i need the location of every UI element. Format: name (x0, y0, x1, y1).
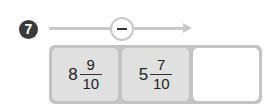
mixed-number: 8 9 10 (68, 57, 101, 93)
fraction: 9 10 (80, 57, 102, 93)
minuend-cell: 8 9 10 (52, 48, 118, 101)
numerator: 7 (157, 57, 165, 73)
fraction: 7 10 (150, 57, 172, 93)
numerator: 9 (87, 57, 95, 73)
whole-part: 5 (139, 65, 148, 85)
answer-cell[interactable] (193, 48, 259, 101)
denominator: 10 (153, 76, 170, 92)
arrow-head-icon (183, 23, 192, 33)
subtrahend-cell: 5 7 10 (122, 48, 189, 101)
mixed-number: 5 7 10 (139, 57, 172, 93)
denominator: 10 (82, 76, 99, 92)
number-boxes: 8 9 10 5 7 10 (49, 45, 262, 104)
minus-operation-circle (110, 17, 134, 41)
whole-part: 8 (68, 65, 77, 85)
problem-number-badge: 7 (19, 20, 38, 39)
minus-icon (117, 28, 127, 30)
